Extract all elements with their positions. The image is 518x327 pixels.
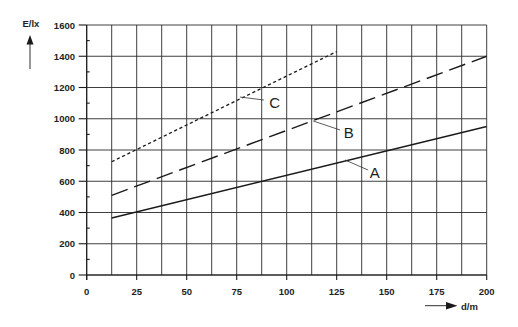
- series: [112, 52, 487, 218]
- y-tick-label: 400: [59, 207, 75, 218]
- leader-line-a: [345, 160, 368, 170]
- series-line-c: [112, 52, 337, 162]
- arrow-right-icon: [425, 302, 458, 309]
- series-line-b: [112, 56, 487, 195]
- x-tick-label: 175: [429, 286, 446, 297]
- chart-canvas: 02004006008001000120014001600 0255075100…: [0, 0, 518, 327]
- y-tick-label: 1200: [54, 82, 75, 93]
- x-axis-title-group: d/m: [425, 301, 478, 312]
- series-labels: CBA: [240, 94, 380, 181]
- series-label-b: B: [344, 124, 354, 141]
- y-axis-title: E/lx: [23, 18, 41, 29]
- grid: [87, 25, 487, 275]
- x-tick-label: 0: [84, 286, 89, 297]
- y-tick-label: 1000: [54, 113, 75, 124]
- series-line-a: [112, 127, 487, 218]
- y-tick-labels: 02004006008001000120014001600: [54, 20, 87, 281]
- x-tick-label: 125: [329, 286, 346, 297]
- x-tick-labels: 0255075100125150175200: [84, 275, 495, 297]
- y-tick-label: 200: [59, 238, 75, 249]
- x-axis-title: d/m: [461, 301, 478, 312]
- x-tick-label: 200: [479, 286, 495, 297]
- x-tick-label: 50: [181, 286, 192, 297]
- leader-line-b: [313, 121, 340, 130]
- leader-line-c: [240, 97, 264, 100]
- series-label-c: C: [269, 94, 280, 111]
- y-tick-label: 800: [59, 145, 75, 156]
- x-tick-label: 150: [379, 286, 395, 297]
- y-axis-title-group: E/lx: [23, 18, 41, 70]
- y-tick-label: 0: [70, 270, 75, 281]
- arrow-up-icon: [27, 35, 34, 69]
- series-label-a: A: [370, 164, 380, 181]
- y-tick-label: 600: [59, 176, 75, 187]
- y-tick-label: 1600: [54, 20, 75, 31]
- x-tick-label: 100: [279, 286, 295, 297]
- y-tick-label: 1400: [54, 51, 75, 62]
- x-tick-label: 25: [131, 286, 142, 297]
- x-tick-label: 75: [231, 286, 242, 297]
- chart: 02004006008001000120014001600 0255075100…: [0, 0, 518, 327]
